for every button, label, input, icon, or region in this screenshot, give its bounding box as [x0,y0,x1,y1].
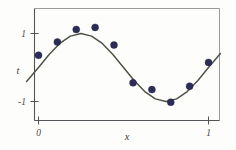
data-point [92,24,99,31]
data-point [148,86,155,93]
data-point [205,59,212,66]
y-axis-title: t [17,65,21,76]
data-point [186,83,193,90]
x-tick-label-0: 0 [36,128,41,138]
data-point [54,39,61,46]
data-point [35,52,42,59]
data-point [130,79,137,86]
data-point [167,99,174,106]
data-point [73,26,80,33]
figure-container: 1 -1 0 1 x t [0,0,236,150]
y-tick-label-minus-1: -1 [18,97,26,107]
plot-area: 1 -1 0 1 x t [0,0,236,150]
x-axis-title: x [124,131,130,142]
x-tick-label-1: 1 [206,128,211,138]
data-point [110,42,117,49]
y-tick-label-1: 1 [21,29,26,39]
